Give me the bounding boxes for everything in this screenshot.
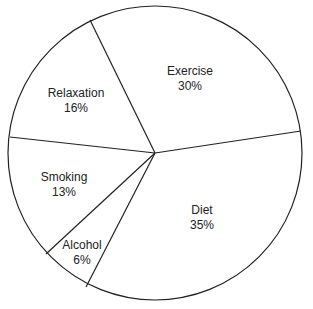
slice-label-relaxation: Relaxation 16% — [48, 86, 105, 116]
slice-label-smoking: Smoking 13% — [41, 170, 88, 200]
slice-label-diet: Diet 35% — [190, 203, 214, 233]
slice-label-exercise: Exercise 30% — [167, 64, 213, 94]
slice-label-alcohol: Alcohol 6% — [62, 238, 101, 268]
pie-chart — [0, 0, 313, 309]
